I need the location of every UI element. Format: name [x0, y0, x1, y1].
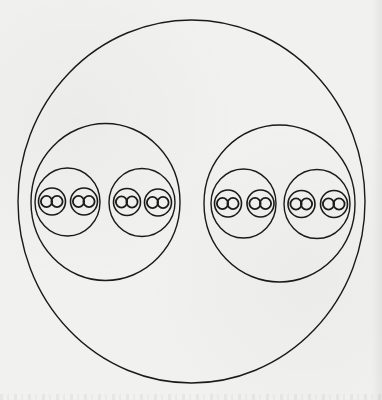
cropped-caption-remnant [0, 394, 382, 400]
inner-circle [290, 198, 301, 209]
subgroup-circle [35, 168, 100, 236]
inner-circle [51, 196, 62, 207]
subgroup-circle [211, 169, 276, 238]
inner-circle [83, 196, 94, 207]
subgroup-circle [284, 170, 350, 239]
right-group [204, 125, 355, 282]
inner-circle [126, 196, 137, 207]
inner-circle [157, 197, 168, 208]
inner-circle [249, 198, 260, 209]
inner-circle [260, 198, 271, 209]
inner-circle [227, 198, 238, 209]
diagram-page [0, 0, 382, 400]
subgroup-circle [109, 169, 175, 237]
inner-circle [41, 196, 52, 207]
inner-circle [217, 198, 228, 209]
inner-circle [73, 196, 84, 207]
inner-circle [301, 198, 312, 209]
inner-circle [147, 197, 158, 208]
left-group [31, 124, 180, 281]
inner-circle [333, 198, 344, 209]
nested-circles-diagram [0, 0, 382, 400]
inner-circle [116, 196, 127, 207]
inner-circle [323, 198, 334, 209]
